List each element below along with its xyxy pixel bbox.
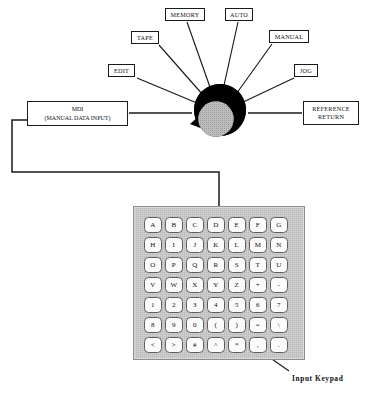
keypad-key[interactable]: * [228, 337, 246, 353]
keypad-key[interactable]: P [165, 257, 183, 273]
keypad-key[interactable]: E [228, 217, 246, 233]
input-keypad-panel: ABCDEFGHIJKLMNOPQRSTUVWXYZ+-1234567890()… [133, 206, 305, 360]
keypad-key[interactable]: 6 [249, 297, 267, 313]
keypad-key[interactable]: 3 [186, 297, 204, 313]
keypad-grid: ABCDEFGHIJKLMNOPQRSTUVWXYZ+-1234567890()… [144, 217, 291, 357]
keypad-key[interactable]: # [186, 337, 204, 353]
keypad-key[interactable]: 4 [207, 297, 225, 313]
keypad-key[interactable]: 7 [270, 297, 288, 313]
cnc-mode-selector-diagram: EDIT TAPE MEMORY AUTO MANUAL JOG REFEREN… [0, 0, 365, 401]
mode-label-edit[interactable]: EDIT [108, 64, 135, 77]
keypad-key[interactable]: J [186, 237, 204, 253]
keypad-key[interactable]: L [228, 237, 246, 253]
spoke-edit [137, 78, 197, 103]
reference-return-line1: REFERENCE [312, 105, 350, 113]
keypad-key[interactable]: A [144, 217, 162, 233]
keypad-key[interactable]: R [207, 257, 225, 273]
keypad-key[interactable]: , [249, 337, 267, 353]
spoke-jog [239, 78, 294, 104]
keypad-caption: Input Keypad [292, 374, 343, 383]
mdi-line1: MDI [72, 105, 84, 113]
spoke-manual [234, 44, 272, 97]
keypad-key[interactable]: 9 [165, 317, 183, 333]
keypad-key[interactable]: Q [186, 257, 204, 273]
mode-label-tape[interactable]: TAPE [131, 31, 159, 44]
mode-label-auto[interactable]: AUTO [225, 8, 253, 21]
keypad-key[interactable]: K [207, 237, 225, 253]
keypad-key[interactable]: F [249, 217, 267, 233]
keypad-key[interactable]: S [228, 257, 246, 273]
spoke-memory [187, 22, 211, 90]
mdi-to-keypad-connector [12, 120, 219, 206]
spoke-auto [223, 22, 238, 90]
keypad-key[interactable]: I [165, 237, 183, 253]
keypad-key[interactable]: 5 [228, 297, 246, 313]
dial-knob-texture [199, 102, 234, 137]
reference-return-line2: RETURN [318, 113, 344, 121]
keypad-key[interactable]: V [144, 277, 162, 293]
mode-label-manual[interactable]: MANUAL [269, 30, 309, 43]
keypad-key[interactable]: + [249, 277, 267, 293]
mode-label-memory[interactable]: MEMORY [165, 8, 205, 21]
mode-label-reference-return[interactable]: REFERENCE RETURN [303, 101, 359, 125]
keypad-key[interactable]: ^ [207, 337, 225, 353]
dial-assembly[interactable] [190, 84, 246, 137]
keypad-key[interactable]: U [270, 257, 288, 273]
keypad-key[interactable]: < [144, 337, 162, 353]
mode-label-mdi[interactable]: MDI (MANUAL DATA INPUT) [27, 101, 128, 126]
keypad-key[interactable]: \ [270, 317, 288, 333]
keypad-key[interactable]: T [249, 257, 267, 273]
keypad-key[interactable]: 1 [144, 297, 162, 313]
mode-label-jog[interactable]: JOG [294, 64, 318, 77]
keypad-key[interactable]: D [207, 217, 225, 233]
keypad-key[interactable]: H [144, 237, 162, 253]
keypad-key[interactable]: X [186, 277, 204, 293]
keypad-key[interactable]: M [249, 237, 267, 253]
keypad-key[interactable]: B [165, 217, 183, 233]
spoke-tape [159, 45, 203, 95]
keypad-key[interactable]: . [270, 337, 288, 353]
keypad-key[interactable]: W [165, 277, 183, 293]
keypad-key[interactable]: 2 [165, 297, 183, 313]
keypad-key[interactable]: G [270, 217, 288, 233]
keypad-key[interactable]: 0 [186, 317, 204, 333]
keypad-key[interactable]: 8 [144, 317, 162, 333]
keypad-key[interactable]: O [144, 257, 162, 273]
keypad-key[interactable]: - [270, 277, 288, 293]
mdi-line2: (MANUAL DATA INPUT) [45, 114, 111, 122]
keypad-key[interactable]: = [249, 317, 267, 333]
keypad-key[interactable]: > [165, 337, 183, 353]
keypad-key[interactable]: Y [207, 277, 225, 293]
keypad-key[interactable]: ( [207, 317, 225, 333]
keypad-key[interactable]: C [186, 217, 204, 233]
keypad-key[interactable]: N [270, 237, 288, 253]
keypad-key[interactable]: ) [228, 317, 246, 333]
keypad-key[interactable]: Z [228, 277, 246, 293]
